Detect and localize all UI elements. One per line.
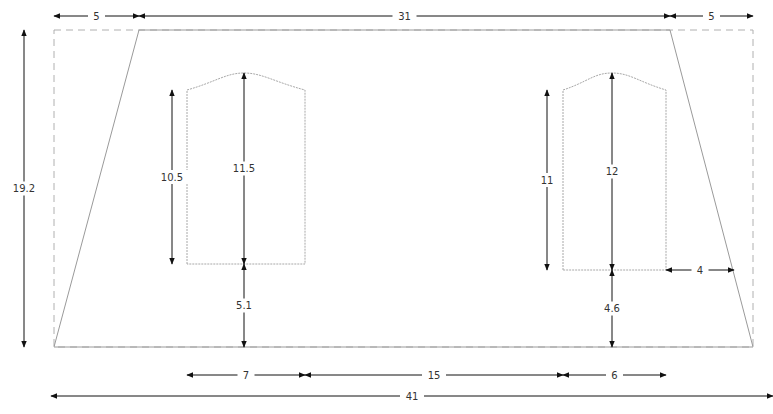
dimension-label: 5.1 [236, 300, 252, 311]
dimension-label: 4 [697, 265, 703, 276]
dimension-label: 12 [606, 166, 619, 177]
trapezoid-outline [54, 30, 753, 347]
dimension-label: 31 [398, 11, 411, 22]
dimension-top-left-offset: 5 [54, 9, 139, 23]
dimension-label: 7 [243, 370, 249, 381]
dimension-label: 11 [541, 175, 554, 186]
dimension-left-window-sill-height: 5.1 [229, 264, 260, 347]
dimension-right-window-width: 6 [563, 368, 666, 382]
dimension-label: 4.6 [604, 303, 620, 314]
dimension-window-gap: 15 [305, 368, 563, 382]
dimension-left-window-width: 7 [187, 368, 305, 382]
dimension-right-window-sill-height: 4.6 [597, 270, 628, 347]
dimension-top-width: 31 [139, 9, 670, 23]
dimension-right-window-edge-offset: 4 [666, 263, 734, 277]
dimension-left-window-peak-height: 11.5 [225, 73, 263, 264]
dimension-label: 19.2 [13, 183, 35, 194]
bounding-box [54, 30, 753, 347]
dimension-bottom-width: 41 [51, 389, 773, 403]
dimension-label: 5 [708, 11, 714, 22]
dimension-label: 41 [406, 391, 419, 402]
dimension-label: 10.5 [161, 172, 183, 183]
dimension-label: 11.5 [233, 163, 255, 174]
dimension-right-window-side-height: 11 [535, 90, 559, 270]
dimension-label: 15 [428, 370, 441, 381]
dimensions-group: 531519.210.511.55.111124.64715641 [5, 9, 773, 403]
dimension-label: 5 [93, 11, 99, 22]
dimension-label: 6 [611, 370, 617, 381]
dimension-diagram: 531519.210.511.55.111124.64715641 [0, 0, 773, 414]
dimension-left-window-side-height: 10.5 [153, 90, 191, 264]
dimension-total-height: 19.2 [5, 30, 43, 347]
dimension-top-right-offset: 5 [670, 9, 753, 23]
dimension-right-window-peak-height: 12 [600, 73, 624, 270]
